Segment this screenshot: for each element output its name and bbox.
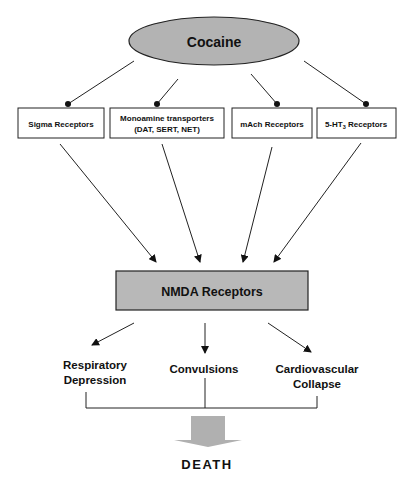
connector-monoamine-dot bbox=[154, 101, 160, 107]
effect-cardiovascular-line2: Collapse bbox=[293, 378, 341, 390]
cocaine-label: Cocaine bbox=[187, 34, 242, 50]
nmda-node: NMDA Receptors bbox=[116, 271, 308, 310]
effect-cardiovascular-line1: Cardiovascular bbox=[275, 363, 359, 375]
connector-5ht3-dot bbox=[363, 101, 369, 107]
receptor-5ht3-label-main: 5-HT bbox=[325, 120, 343, 129]
effect-respiratory-line1: Respiratory bbox=[63, 359, 128, 371]
nmda-effect-arrows bbox=[92, 323, 311, 353]
effect-respiratory: Respiratory Depression bbox=[63, 359, 128, 386]
arrow-monoamine-to-nmda bbox=[162, 144, 200, 262]
receptor-nmda-arrows bbox=[60, 143, 361, 262]
effect-cardiovascular: Cardiovascular Collapse bbox=[275, 363, 359, 390]
arrow-sigma-to-nmda bbox=[60, 144, 156, 262]
receptor-mach: mAch Receptors bbox=[232, 108, 312, 138]
cocaine-receptor-connectors bbox=[65, 61, 369, 107]
block-arrow-down-icon bbox=[174, 416, 242, 447]
receptor-sigma-label: Sigma Receptors bbox=[28, 120, 94, 129]
nmda-label: NMDA Receptors bbox=[161, 285, 263, 299]
receptor-sigma: Sigma Receptors bbox=[18, 108, 104, 138]
arrow-nmda-to-cardiovascular bbox=[268, 323, 311, 352]
receptor-5ht3-label-suffix: Receptors bbox=[346, 120, 388, 129]
connector-sigma-dot bbox=[65, 101, 71, 107]
receptor-monoamine: Monoamine transporters (DAT, SERT, NET) bbox=[110, 108, 224, 138]
effect-respiratory-line2: Depression bbox=[64, 374, 127, 386]
receptor-5ht3: 5-HT3 Receptors bbox=[317, 108, 396, 138]
receptor-mach-label: mAch Receptors bbox=[240, 120, 304, 129]
outcome-death-label: DEATH bbox=[181, 457, 232, 472]
receptor-5ht3-label: 5-HT3 Receptors bbox=[325, 120, 388, 130]
connector-sigma bbox=[68, 61, 134, 104]
receptor-monoamine-label-line1: Monoamine transporters bbox=[120, 114, 214, 123]
arrow-nmda-to-respiratory bbox=[92, 323, 134, 345]
receptor-monoamine-label-line2: (DAT, SERT, NET) bbox=[134, 125, 200, 134]
connector-monoamine bbox=[157, 79, 178, 104]
connector-mach-dot bbox=[274, 101, 280, 107]
arrow-mach-to-nmda bbox=[243, 147, 272, 262]
arrow-5ht3-to-nmda bbox=[274, 143, 361, 262]
connector-mach bbox=[251, 74, 277, 104]
connector-5ht3 bbox=[304, 61, 366, 104]
bracket-outline bbox=[86, 392, 317, 408]
diagram-canvas: Cocaine Sigma Receptors Monoamine transp… bbox=[0, 0, 406, 480]
cocaine-node: Cocaine bbox=[129, 17, 299, 65]
effect-convulsions: Convulsions bbox=[169, 363, 238, 375]
effect-convulsions-label: Convulsions bbox=[169, 363, 238, 375]
